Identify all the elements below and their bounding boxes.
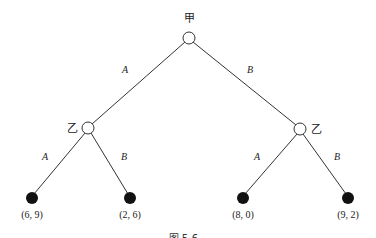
- root-decision-node: [183, 32, 195, 44]
- terminal-node: [26, 192, 38, 204]
- payoff-label: (8, 0): [232, 209, 254, 221]
- terminal-node: [124, 192, 136, 204]
- edge-label-left-a: A: [41, 151, 49, 162]
- left-player-label: 乙: [67, 122, 78, 134]
- edge-right-a: [245, 134, 297, 194]
- edge-left-a: [34, 133, 85, 194]
- edge-label-right-a: A: [253, 151, 261, 162]
- edge-right-b: [303, 134, 346, 194]
- edge-root-left: [92, 42, 185, 124]
- game-tree-diagram: 甲 乙 乙 A B A B A B (6, 9) (2, 6) (8, 0) (…: [0, 0, 376, 238]
- payoff-label: (6, 9): [21, 209, 43, 221]
- right-decision-node: [294, 123, 306, 135]
- terminal-node: [237, 192, 249, 204]
- tree-edges: [34, 42, 346, 194]
- payoff-label: (2, 6): [119, 209, 141, 221]
- figure-caption: 图 5-6 …: [169, 233, 212, 238]
- edge-left-b: [91, 133, 128, 194]
- edge-label-root-b: B: [247, 64, 253, 75]
- root-player-label: 甲: [184, 12, 195, 24]
- payoff-label: (9, 2): [337, 209, 359, 221]
- edge-label-right-b: B: [334, 151, 340, 162]
- left-decision-node: [82, 122, 94, 134]
- edge-root-right: [193, 42, 296, 125]
- right-player-label: 乙: [311, 123, 322, 135]
- edge-label-root-a: A: [121, 64, 129, 75]
- terminal-node: [342, 192, 354, 204]
- edge-label-left-b: B: [121, 151, 127, 162]
